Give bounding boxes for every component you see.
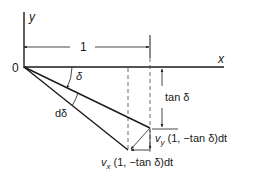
unit-length-label: 1 (80, 40, 87, 54)
velocity-angle-diagram: y x 0 1 δ dδ tan δ vy (1, −tan δ)dt vx (… (0, 0, 256, 180)
ray-upper (24, 67, 150, 128)
vy-expression: (1, −tan δ)dt (165, 132, 228, 144)
d-delta-arc (72, 93, 78, 106)
x-axis-label: x (217, 52, 225, 66)
vx-expression: (1, −tan δ)dt (111, 156, 174, 168)
delta-arc (67, 67, 72, 88)
delta-label: δ (76, 70, 83, 82)
vy-vector (131, 128, 150, 149)
vy-label: vy (1, −tan δ)dt (155, 132, 227, 147)
vx-label: vx (1, −tan δ)dt (101, 156, 173, 171)
y-axis-label: y (28, 10, 36, 24)
d-delta-label: dδ (55, 107, 67, 119)
tan-delta-label: tan δ (165, 91, 189, 103)
origin-label: 0 (12, 61, 19, 75)
